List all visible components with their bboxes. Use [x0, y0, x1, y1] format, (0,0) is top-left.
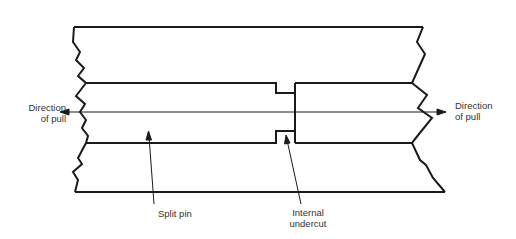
internal-undercut-label: Internal undercut [283, 207, 333, 229]
label-line: Internal [283, 207, 333, 218]
undercut-leader [287, 140, 301, 204]
direction-of-pull-left-label: Direction of pull [8, 102, 66, 124]
split-pin-diagram [0, 0, 516, 239]
label-line: of pull [455, 111, 493, 122]
split-pin-leader [149, 136, 154, 204]
undercut-leader-arrow-icon [285, 135, 291, 144]
direction-of-pull-right-label: Direction of pull [455, 100, 493, 122]
pin-left-upper-edge [86, 83, 295, 93]
left-break-line [73, 27, 88, 192]
label-line: Direction [455, 100, 493, 111]
split-pin-label: Split pin [158, 208, 192, 219]
split-pin-leader-arrow-icon [146, 131, 152, 140]
label-line: of pull [8, 113, 66, 124]
pin-left-lower-edge [86, 131, 295, 143]
label-line: undercut [283, 218, 333, 229]
label-line: Direction [8, 102, 66, 113]
arrow-right-icon [437, 109, 446, 115]
